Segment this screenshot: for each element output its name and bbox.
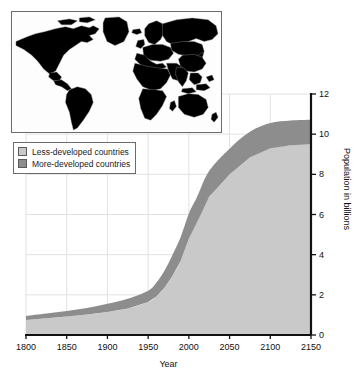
y-tick-label: 2: [319, 290, 324, 300]
legend-swatch-less-developed: [18, 147, 27, 156]
world-map-inset: [11, 11, 222, 133]
legend-label-less-developed: Less-developed countries: [32, 147, 129, 157]
legend-label-more-developed: More-developed countries: [32, 159, 130, 169]
x-tick-label: 1900: [97, 342, 117, 352]
x-tick-label: 2100: [260, 342, 280, 352]
x-tick-label: 2150: [301, 342, 321, 352]
x-tick-label: 1950: [138, 342, 158, 352]
x-tick-label: 1850: [57, 342, 77, 352]
x-tick-label: 2050: [220, 342, 240, 352]
population-growth-figure: Less-developed countries More-developed …: [0, 0, 363, 378]
y-tick-label: 10: [319, 129, 329, 139]
x-axis-title: Year: [159, 359, 177, 369]
y-tick-label: 4: [319, 250, 324, 260]
y-tick-label: 12: [319, 89, 329, 99]
legend-item-more-developed: More-developed countries: [18, 158, 130, 169]
y-tick-label: 6: [319, 210, 324, 220]
y-axis-title: Population in billions: [342, 148, 352, 230]
x-tick-label: 1800: [16, 342, 36, 352]
x-tick-label: 2000: [179, 342, 199, 352]
legend-swatch-more-developed: [18, 159, 27, 168]
legend-item-less-developed: Less-developed countries: [18, 146, 130, 157]
y-tick-label: 0: [319, 330, 324, 340]
y-tick-label: 8: [319, 169, 324, 179]
chart-legend: Less-developed countries More-developed …: [13, 142, 136, 174]
